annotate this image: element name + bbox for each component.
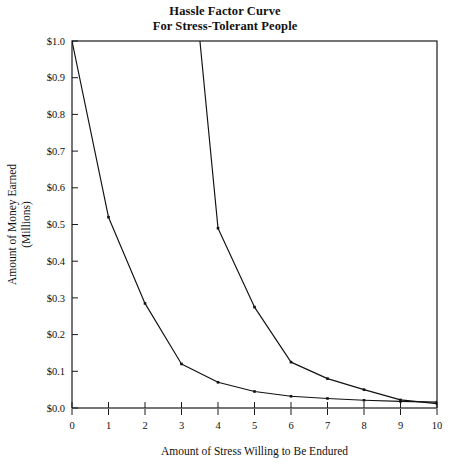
series-data-point: [363, 388, 366, 391]
x-tick-label: 7: [325, 420, 330, 431]
y-tick-label: $0.6: [47, 182, 65, 193]
x-tick-label: 4: [215, 420, 221, 431]
series-data-point: [144, 302, 147, 305]
series-data-point: [107, 216, 110, 219]
x-axis-ticks: 012345678910: [69, 402, 442, 431]
y-tick-label: $0.5: [47, 219, 65, 230]
y-tick-label: $0.1: [47, 366, 65, 377]
y-tick-label: $0.0: [47, 403, 65, 414]
series-data-point: [217, 381, 220, 384]
series-line-upper-curve: [138, 0, 437, 404]
x-tick-label: 9: [398, 420, 403, 431]
series-data-point: [436, 402, 439, 405]
y-tick-label: $0.7: [47, 146, 65, 157]
x-axis-title: Amount of Stress Willing to Be Endured: [161, 445, 348, 458]
x-tick-label: 6: [288, 420, 293, 431]
series-data-point: [253, 306, 256, 309]
series-data-point: [71, 40, 74, 43]
svg-text:(Millions): (Millions): [20, 201, 33, 248]
x-tick-label: 8: [361, 420, 366, 431]
y-tick-label: $0.8: [47, 109, 65, 120]
plot-frame: [72, 41, 437, 408]
x-tick-label: 3: [179, 420, 184, 431]
y-tick-label: $1.0: [47, 36, 65, 47]
series-data-point: [326, 397, 329, 400]
series-data-point: [180, 363, 183, 366]
series-data-point: [326, 377, 329, 380]
series-data-point: [363, 399, 366, 402]
y-axis-title: Amount of Money Earned (Millions): [6, 164, 33, 285]
chart-plot: $0.0$0.1$0.2$0.3$0.4$0.5$0.6$0.7$0.8$0.9…: [0, 0, 450, 465]
series-group: [71, 0, 439, 405]
y-tick-label: $0.3: [47, 293, 65, 304]
series-markers-upper-curve: [180, 0, 438, 405]
y-axis-ticks: $0.0$0.1$0.2$0.3$0.4$0.5$0.6$0.7$0.8$0.9…: [47, 36, 78, 414]
series-data-point: [253, 390, 256, 393]
series-line-lower-curve: [72, 41, 437, 402]
series-markers-lower-curve: [71, 40, 439, 404]
x-tick-label: 10: [432, 420, 443, 431]
series-data-point: [290, 395, 293, 398]
svg-text:Amount of Money Earned: Amount of Money Earned: [6, 164, 19, 285]
svg-text:Amount of Stress Willing to Be: Amount of Stress Willing to Be Endured: [161, 445, 348, 458]
x-tick-label: 1: [106, 420, 111, 431]
x-tick-label: 0: [69, 420, 74, 431]
series-data-point: [217, 227, 220, 230]
chart-page: Hassle Factor Curve For Stress-Tolerant …: [0, 0, 450, 465]
series-data-point: [399, 399, 402, 402]
y-tick-label: $0.9: [47, 72, 65, 83]
y-tick-label: $0.2: [47, 329, 65, 340]
x-tick-label: 5: [252, 420, 257, 431]
y-tick-label: $0.4: [47, 256, 66, 267]
x-tick-label: 2: [142, 420, 147, 431]
series-data-point: [290, 361, 293, 364]
